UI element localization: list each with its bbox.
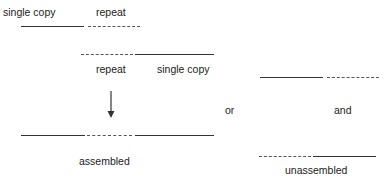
unassembled-bottom-single-copy xyxy=(313,156,376,157)
assembled-repeat xyxy=(87,135,132,136)
label-or: or xyxy=(225,104,234,116)
label-and: and xyxy=(334,104,352,116)
label-unassembled: unassembled xyxy=(285,164,347,176)
unassembled-bottom-repeat xyxy=(259,156,311,157)
label-assembled: assembled xyxy=(79,155,130,167)
assembled-left-single-copy xyxy=(21,135,85,136)
assembled-right-single-copy xyxy=(135,135,214,136)
unassembled-top-single-copy xyxy=(260,77,323,78)
unassembled-top-repeat xyxy=(327,77,379,78)
down-arrow-icon xyxy=(0,0,391,187)
